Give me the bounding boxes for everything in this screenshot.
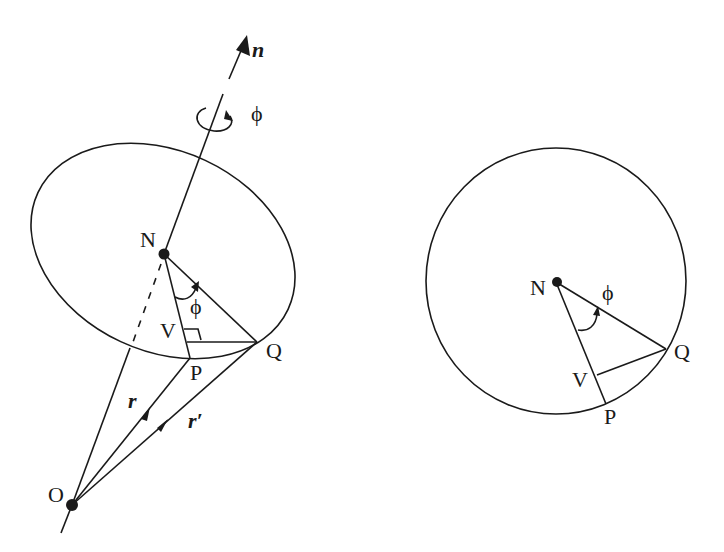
label-O: O [48,482,64,507]
label-r-prime: r′ [188,408,203,433]
label-V: V [160,318,176,343]
left-figure: n ϕ ϕ N V P Q [0,35,330,533]
rotation-label-phi: ϕ [251,101,263,126]
label-r: r [128,388,137,413]
vector-r-arrow-icon [141,407,150,421]
line-VQ-right [597,349,666,375]
right-angle-marker [184,329,201,340]
angle-label-phi-right: ϕ [602,280,614,305]
label-Q: Q [266,338,282,363]
point-N-right [552,277,562,287]
rotation-axis [164,94,223,254]
label-P: P [190,360,202,385]
axis-hidden-dashed [133,264,161,342]
rotation-diagram: n ϕ ϕ N V P Q [0,0,724,552]
line-O-to-disc [72,348,130,505]
vector-r-prime-arrow-icon [157,419,168,432]
label-V-right: V [572,367,588,392]
label-Q-right: Q [674,339,690,364]
vector-r [72,358,190,505]
angle-arc-right [578,314,597,330]
label-N-right: N [530,275,546,300]
label-P-right: P [604,404,616,429]
right-figure: ϕ N Q V P [426,148,690,429]
angle-label-phi: ϕ [190,294,202,319]
label-N: N [140,227,156,252]
point-N [159,249,170,260]
point-O [66,499,78,511]
rotation-swirl-icon [197,108,233,131]
axis-label-n: n [252,37,264,62]
axis-arrow-icon [229,35,250,79]
